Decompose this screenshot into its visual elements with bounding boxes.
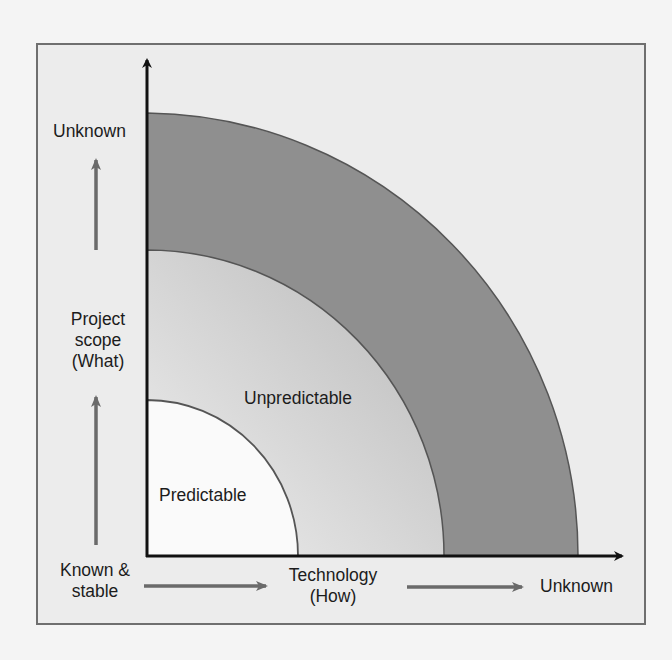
y-axis-low-label-line-1: Known & bbox=[50, 560, 140, 581]
y-axis-title-line-2: scope bbox=[58, 330, 138, 351]
predictable-label: Predictable bbox=[159, 485, 247, 506]
x-axis-title-line-2: (How) bbox=[280, 586, 386, 607]
unpredictable-label: Unpredictable bbox=[244, 388, 352, 409]
x-axis-title-line-1: Technology bbox=[280, 565, 386, 586]
y-axis-high-label: Unknown bbox=[53, 121, 126, 142]
y-axis-title: Project scope (What) bbox=[58, 309, 138, 372]
y-axis-low-label: Known & stable bbox=[50, 560, 140, 602]
x-axis-title: Technology (How) bbox=[280, 565, 386, 607]
y-axis-low-label-line-2: stable bbox=[50, 581, 140, 602]
y-axis-title-line-1: Project bbox=[58, 309, 138, 330]
x-axis-high-label: Unknown bbox=[540, 576, 613, 597]
y-axis-title-line-3: (What) bbox=[58, 351, 138, 372]
